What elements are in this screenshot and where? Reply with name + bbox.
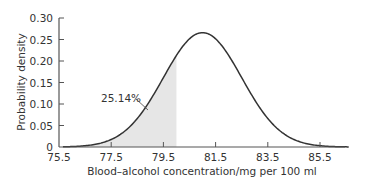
- annotation-leader-line: [136, 99, 148, 110]
- x-tick-label: 77.5: [100, 151, 123, 163]
- x-axis-title: Blood–alcohol concentration/mg per 100 m…: [87, 165, 317, 177]
- annotation: 25.14%: [101, 92, 148, 110]
- y-axis-title: Probability density: [15, 33, 27, 130]
- x-tick-label: 81.5: [204, 151, 227, 163]
- x-tick-label: 83.5: [256, 151, 279, 163]
- y-tick-label: 0.30: [30, 12, 53, 24]
- y-tick-label: 0.05: [30, 120, 53, 132]
- y-axis: 00.050.100.150.200.250.30: [30, 12, 64, 153]
- y-tick-label: 0: [46, 141, 53, 153]
- x-tick-label: 85.5: [308, 151, 331, 163]
- y-tick-label: 0.25: [30, 34, 53, 46]
- area-percent-label: 25.14%: [101, 92, 141, 104]
- y-tick-label: 0.10: [30, 98, 53, 110]
- x-tick-label: 79.5: [152, 151, 175, 163]
- y-tick-label: 0.15: [30, 77, 53, 89]
- y-tick-label: 0.20: [30, 55, 53, 67]
- density-curve: [63, 33, 349, 147]
- normal-distribution-chart: 75.577.579.581.583.585.5 00.050.100.150.…: [0, 0, 365, 190]
